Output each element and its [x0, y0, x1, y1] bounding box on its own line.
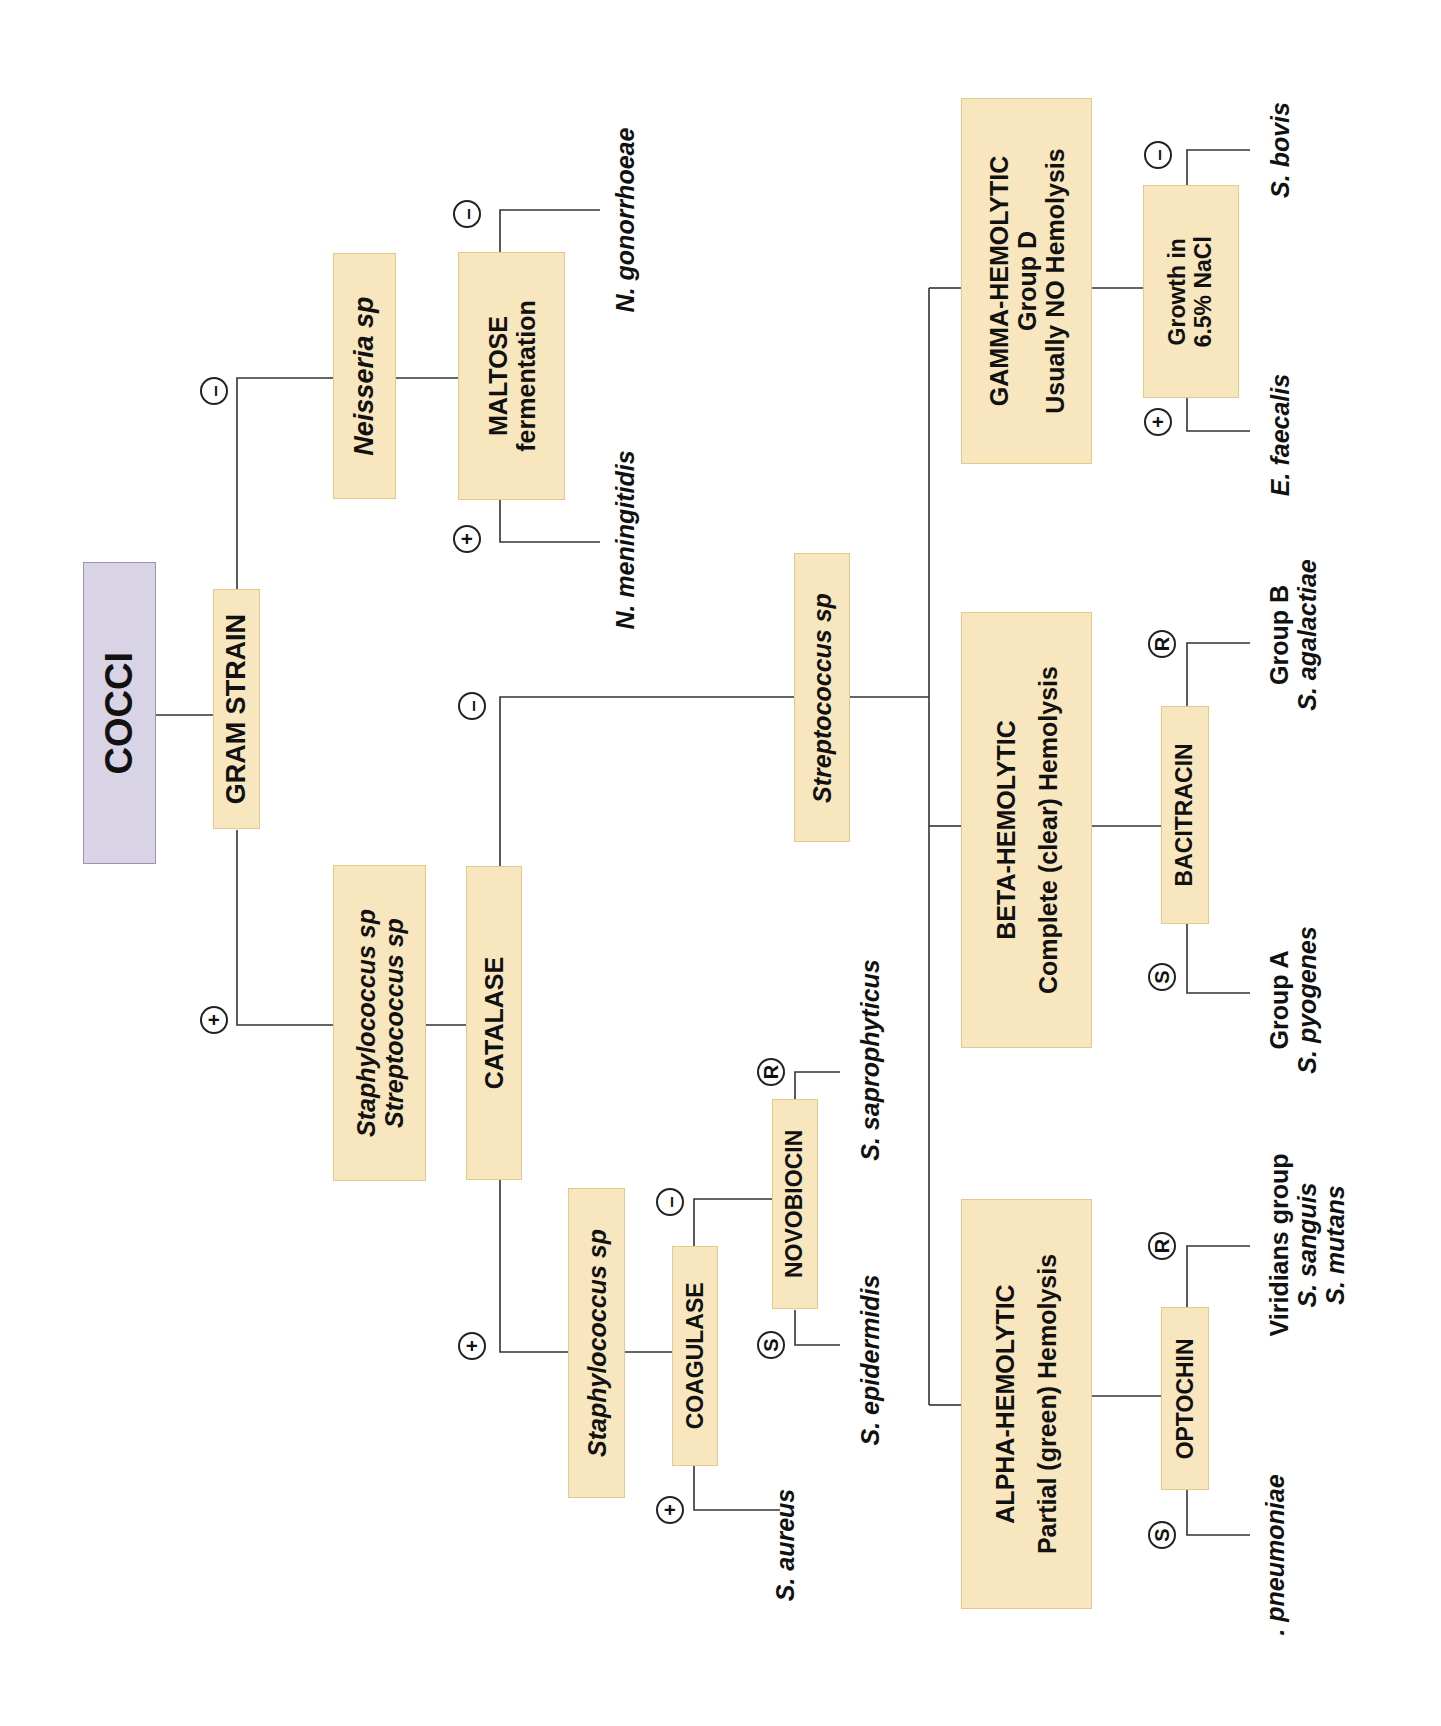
neisseria-box: Neisseria sp: [333, 253, 396, 499]
result-s-epidermidis: S. epidermidis: [845, 1235, 895, 1485]
result-n-gonorrhoeae: N. gonorrhoeae: [600, 95, 650, 345]
gamma-hemolytic-box: GAMMA-HEMOLYTIC Group D Usually NO Hemol…: [961, 98, 1092, 464]
catalase-negative-sign: –: [458, 692, 486, 720]
root-box-cocci: COCCI: [83, 562, 156, 864]
result-s-aureus: S. aureus: [760, 1465, 810, 1625]
result-s-bovis: S. bovis: [1255, 85, 1305, 215]
catalase-positive-sign: +: [458, 1332, 486, 1360]
staphylococcus-box: Staphylococcus sp: [568, 1188, 625, 1498]
beta-hemolytic-box: BETA-HEMOLYTIC Complete (clear) Hemolysi…: [961, 612, 1092, 1048]
gram-positive-sign: +: [200, 1006, 228, 1034]
optochin-label: OPTOCHIN: [1172, 1338, 1198, 1459]
gram-stain-box: GRAM STRAIN: [213, 589, 260, 829]
bacitracin-label: BACITRACIN: [1172, 743, 1198, 886]
optochin-box: OPTOCHIN: [1161, 1307, 1209, 1490]
optochin-sensitive-sign: S: [1148, 1521, 1176, 1549]
novobiocin-resistant-sign: R: [757, 1058, 785, 1086]
novobiocin-label: NOVOBIOCIN: [782, 1130, 808, 1278]
nacl-growth-label: Growth in 6.5% NaCl: [1165, 236, 1217, 347]
staphylococcus-label: Staphylococcus sp: [583, 1229, 611, 1457]
neisseria-label: Neisseria sp: [349, 296, 379, 455]
coagulase-positive-sign: +: [656, 1496, 684, 1524]
nacl-negative-sign: –: [1144, 141, 1172, 169]
coagulase-label: COAGULASE: [682, 1283, 708, 1430]
gamma-label: GAMMA-HEMOLYTIC Group D Usually NO Hemol…: [985, 148, 1069, 413]
nacl-growth-box: Growth in 6.5% NaCl: [1143, 185, 1239, 398]
bacitracin-box: BACITRACIN: [1161, 706, 1209, 924]
novobiocin-sensitive-sign: S: [757, 1331, 785, 1359]
bacitracin-resistant-sign: R: [1148, 630, 1176, 658]
root-label: COCCI: [98, 652, 141, 774]
streptococcus-box: Streptococcus sp: [794, 553, 850, 842]
result-s-saprophyticus: S. saprophyticus: [845, 930, 895, 1190]
result-n-meningitidis: N. meningitidis: [600, 415, 650, 665]
maltose-label: MALTOSE fermentation: [484, 300, 540, 451]
result-s-pneumoniae: . pneumoniae: [1250, 1455, 1300, 1655]
gram-negative-sign: –: [200, 377, 228, 405]
alpha-label: ALPHA-HEMOLYTIC Partial (green) Hemolysi…: [992, 1254, 1062, 1554]
coagulase-negative-sign: –: [656, 1188, 684, 1216]
nacl-positive-sign: +: [1144, 408, 1172, 436]
result-group-b: Group B S. agalactiae: [1250, 535, 1335, 735]
gram-stain-label: GRAM STRAIN: [221, 614, 251, 805]
bacitracin-sensitive-sign: S: [1148, 963, 1176, 991]
optochin-resistant-sign: R: [1148, 1232, 1176, 1260]
alpha-hemolytic-box: ALPHA-HEMOLYTIC Partial (green) Hemolysi…: [961, 1199, 1092, 1609]
cocci-identification-flowchart: COCCI GRAM STRAIN – + Neisseria sp MALTO…: [0, 0, 1441, 1726]
maltose-fermentation-box: MALTOSE fermentation: [458, 252, 565, 500]
catalase-label: CATALASE: [480, 957, 508, 1089]
maltose-positive-sign: +: [453, 525, 481, 553]
streptococcus-label: Streptococcus sp: [808, 593, 836, 803]
result-e-faecalis: E. faecalis: [1255, 355, 1305, 515]
beta-label: BETA-HEMOLYTIC Complete (clear) Hemolysi…: [992, 666, 1062, 994]
novobiocin-box: NOVOBIOCIN: [772, 1099, 818, 1309]
maltose-negative-sign: –: [453, 200, 481, 228]
staph-strep-box: Staphylococcus sp Streptococcus sp: [333, 865, 426, 1181]
staph-strep-label: Staphylococcus sp Streptococcus sp: [352, 909, 408, 1137]
result-group-a: Group A S. pyogenes: [1250, 900, 1335, 1100]
coagulase-box: COAGULASE: [672, 1246, 718, 1466]
catalase-box: CATALASE: [466, 866, 522, 1180]
result-viridians-group: Viridians group S. sanguis S. mutans: [1250, 1140, 1365, 1350]
